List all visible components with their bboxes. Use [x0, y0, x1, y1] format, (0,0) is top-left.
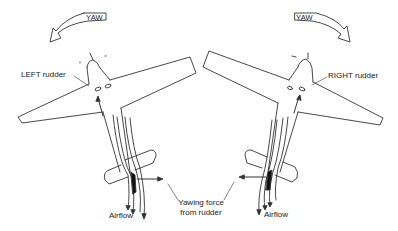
yaw-right-label: YAW [296, 14, 313, 22]
yawing-force-label: Yawing force from rudder [168, 199, 234, 217]
yawing-force-line2: from rudder [168, 209, 234, 217]
yaw-left-label: YAW [86, 14, 103, 22]
left-rudder-label: LEFT rudder [21, 71, 66, 79]
yawing-force-line1: Yawing force [168, 199, 234, 207]
right-airflow-label: Airflow [264, 211, 288, 219]
right-rudder-label: RIGHT rudder [328, 72, 378, 80]
left-airflow-label: Airflow [109, 212, 133, 220]
yaw-diagram [0, 0, 398, 231]
